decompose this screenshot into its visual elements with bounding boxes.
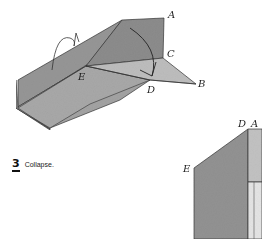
label-D-2: D [237,118,246,129]
step-instruction: Collapse. [25,161,54,168]
step-caption: 3 Collapse. [12,158,54,172]
label-E-2: E [182,163,191,174]
step-number: 3 [12,158,20,172]
label-C: C [167,48,175,59]
label-A: A [167,9,175,20]
label-A-2: A [250,118,258,129]
result-right-panel-top [248,129,262,182]
figure-1: A C B D E [16,9,205,130]
result-right-panel-bottom [248,182,262,239]
folding-diagram-main: A C B D E D A E [0,0,262,239]
label-D: D [146,84,155,95]
label-E: E [77,71,86,82]
label-B: B [197,78,205,89]
result-left-panel [194,129,248,239]
figure-2: D A E [182,118,262,239]
